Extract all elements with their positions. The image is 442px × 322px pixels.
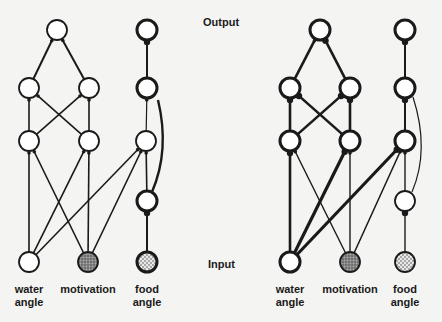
connection-h2b-o [62,39,84,79]
unit-node-left-im [78,252,98,272]
connection-im-f3 [92,150,141,253]
unit-node-right-f2 [395,78,415,98]
unit-node-left-f4 [137,191,157,211]
connection-im-f3 [354,150,401,253]
connection-f3-f2 [146,98,147,131]
unit-node-right-f4 [395,191,415,211]
unit-node-right-im [340,252,360,272]
unit-node-right-if [395,252,415,272]
unit-node-left-f2 [137,78,157,98]
unit-node-left-f1 [137,20,157,40]
connection-f4-f3 [146,151,147,191]
unit-node-left-h3b [79,131,99,151]
network-diagram [0,0,442,322]
unit-node-right-f1 [395,20,415,40]
connection-h2a-o [295,39,316,79]
unit-node-right-h2a [280,78,300,98]
unit-node-left-h2b [79,78,99,98]
connection-iw-f3 [297,148,398,255]
unit-node-left-o [47,20,67,40]
unit-node-left-if [137,252,157,272]
unit-node-left-h3a [19,131,39,151]
unit-node-left-f3 [136,131,156,151]
unit-node-right-h3a [280,131,300,151]
input-label: Input [208,258,235,270]
unit-node-right-h2b [340,78,360,98]
unit-node-right-f3 [395,131,415,151]
unit-node-left-h2a [19,78,39,98]
connection-h2b-o [325,39,346,79]
unit-node-right-iw [280,252,300,272]
output-label: Output [203,16,239,28]
connection-im-h3b [88,151,89,252]
units [19,20,415,272]
unit-node-right-h3b [340,131,360,151]
input-label-food: foodangle [370,283,440,309]
connection-h2a-o [33,39,52,79]
input-label-food: foodangle [112,283,182,309]
unit-node-right-o [310,20,330,40]
unit-node-left-iw [19,252,39,272]
